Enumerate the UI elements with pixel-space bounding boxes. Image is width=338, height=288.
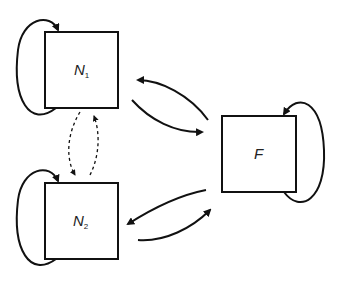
node-f: F [222, 116, 296, 192]
node-n1-subscript: 1 [85, 71, 90, 80]
node-n2-label: N [73, 212, 84, 229]
node-n1: N1 [45, 32, 118, 108]
node-n1-label: N [74, 61, 85, 78]
edge-n1-to-f [132, 100, 202, 132]
diagram-canvas: N1 N2 F [0, 0, 338, 288]
edge-n2-to-f [138, 210, 210, 240]
node-f-label: F [254, 145, 264, 162]
node-n2: N2 [45, 183, 118, 259]
edge-n2-to-n1-dashed [90, 116, 98, 175]
node-n2-subscript: 2 [84, 222, 89, 231]
edge-f-to-n2 [128, 190, 206, 224]
edge-n1-to-n2-dashed [69, 112, 80, 175]
